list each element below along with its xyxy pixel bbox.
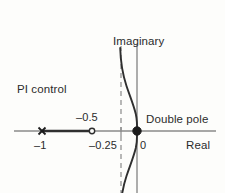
double-pole-dot-marker (133, 127, 141, 135)
real-axis-label: Real (186, 140, 210, 152)
pi-control-annotation: PI control (17, 84, 67, 96)
tick-label-zero: 0 (140, 140, 146, 151)
locus-branch-lower (120, 131, 137, 193)
tick-label-minus-half: –0.5 (76, 112, 98, 123)
imaginary-axis-label: Imaginary (113, 36, 164, 48)
tick-label-minus-quarter: –0.25 (89, 140, 117, 151)
root-locus-figure: Imaginary Real PI control Double pole –1… (0, 0, 225, 193)
tick-label-minus-one: –1 (34, 140, 46, 151)
locus-branch-upper (120, 48, 137, 131)
double-pole-annotation: Double pole (146, 114, 208, 126)
root-locus-plot (0, 0, 225, 193)
open-loop-zero-circle-marker (89, 128, 94, 133)
